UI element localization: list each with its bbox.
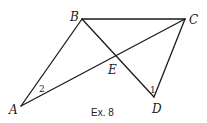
vertex-label-e: E — [107, 63, 117, 77]
vertex-label-b: B — [69, 10, 79, 24]
figure-caption: Ex. 8 — [91, 107, 114, 118]
geometry-diagram: B C A D E 2 1 Ex. 8 — [0, 0, 207, 123]
segment-cd — [154, 19, 185, 97]
angle-label-2: 2 — [39, 84, 45, 94]
segment-bd — [82, 19, 154, 97]
vertex-label-d: D — [151, 102, 162, 116]
vertex-label-c: C — [189, 13, 198, 27]
segment-ab — [21, 19, 82, 106]
vertex-label-a: A — [8, 103, 18, 117]
angle-label-1: 1 — [150, 85, 156, 95]
segment-ac — [21, 19, 185, 106]
